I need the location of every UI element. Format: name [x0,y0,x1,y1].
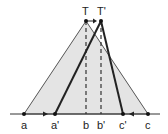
label-a-prime: a' [51,119,59,131]
label-b-prime: b' [97,119,105,131]
label-T: T [82,5,89,17]
label-c: c [145,119,151,131]
label-b: b [83,119,89,131]
arrow-t-to-t-prime [87,19,97,24]
label-c-prime: c' [119,119,127,131]
triangle-shift-diagram: T T' a a' b b' c' c [0,0,168,134]
label-a: a [21,119,28,131]
label-T-prime: T' [97,5,106,17]
